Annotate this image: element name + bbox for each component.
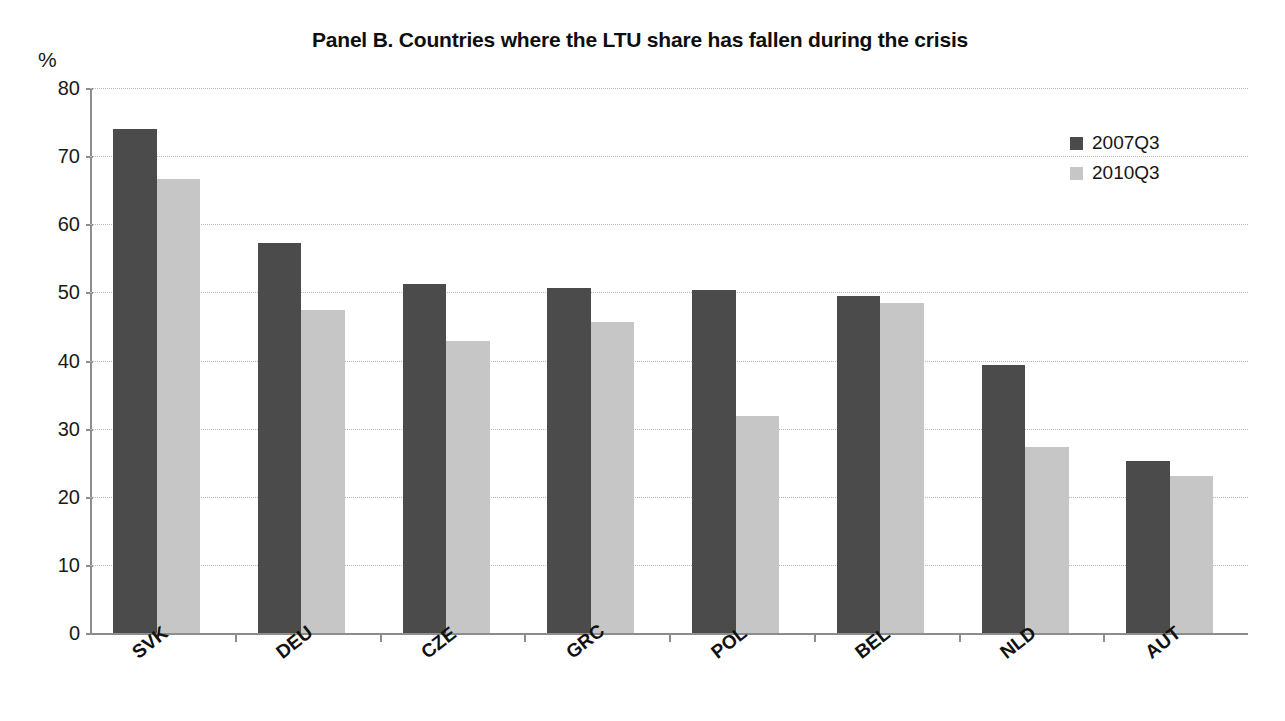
y-tick-label-50: 50: [34, 281, 80, 304]
legend-label: 2010Q3: [1092, 162, 1160, 184]
bar-svk-2007q3[interactable]: [113, 129, 156, 633]
bar-pol-2010q3[interactable]: [736, 416, 779, 633]
bar-nld-2010q3[interactable]: [1025, 447, 1068, 633]
bar-nld-2007q3[interactable]: [982, 365, 1025, 633]
bar-bel-2007q3[interactable]: [837, 296, 880, 633]
bar-grc-2007q3[interactable]: [547, 288, 590, 633]
y-tick-label-80: 80: [34, 77, 80, 100]
y-tick-label-40: 40: [34, 349, 80, 372]
bar-group-pol: [692, 88, 779, 633]
legend-label: 2007Q3: [1092, 132, 1160, 154]
chart-title: Panel B. Countries where the LTU share h…: [190, 28, 1090, 52]
bar-group-bel: [837, 88, 924, 633]
y-tick-label-10: 10: [34, 553, 80, 576]
bar-group-nld: [982, 88, 1069, 633]
y-tick-label-20: 20: [34, 485, 80, 508]
bar-group-svk: [113, 88, 200, 633]
y-tick-label-30: 30: [34, 417, 80, 440]
bar-aut-2010q3[interactable]: [1170, 476, 1213, 633]
chart-legend: 2007Q32010Q3: [1070, 128, 1230, 188]
bar-cze-2007q3[interactable]: [403, 284, 446, 633]
legend-swatch-icon-2010q3: [1070, 167, 1083, 180]
chart-figure: Panel B. Countries where the LTU share h…: [0, 0, 1285, 721]
y-axis-unit-label: %: [38, 48, 57, 72]
bar-cze-2010q3[interactable]: [446, 341, 489, 633]
y-axis-tick-labels: 01020304050607080: [32, 88, 80, 634]
bar-grc-2010q3[interactable]: [591, 322, 634, 633]
legend-item-2010q3[interactable]: 2010Q3: [1070, 158, 1230, 188]
x-axis-category-labels: SVKDEUCZEGRCPOLBELNLDAUT: [90, 640, 1248, 720]
y-tick-label-0: 0: [34, 622, 80, 645]
bar-group-cze: [403, 88, 490, 633]
bar-deu-2010q3[interactable]: [301, 310, 344, 633]
legend-item-2007q3[interactable]: 2007Q3: [1070, 128, 1230, 158]
bar-group-deu: [258, 88, 345, 633]
bar-pol-2007q3[interactable]: [692, 290, 735, 633]
bar-bel-2010q3[interactable]: [880, 303, 923, 633]
bar-svk-2010q3[interactable]: [157, 179, 200, 633]
legend-swatch-icon-2007q3: [1070, 137, 1083, 150]
y-tick-label-60: 60: [34, 213, 80, 236]
bar-aut-2007q3[interactable]: [1126, 461, 1169, 633]
bar-deu-2007q3[interactable]: [258, 243, 301, 633]
bar-group-grc: [547, 88, 634, 633]
y-tick-label-70: 70: [34, 145, 80, 168]
